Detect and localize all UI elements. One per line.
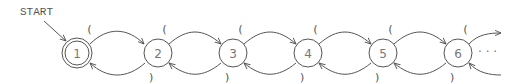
start-arrow [44,21,66,41]
state-1-label: 1 [73,47,81,61]
state-5-label: 5 [379,47,387,61]
edge-1-2 [90,31,144,44]
edge-5-4 [319,63,371,74]
edge-6-5 [394,63,446,74]
edge-2-3 [169,32,221,44]
label-4-5: ( [312,23,319,36]
edge-5-6 [394,32,446,44]
label-6-next: ( [462,23,469,36]
label-1-2: ( [86,23,93,36]
backward-labels: ) ) ) ) ) [148,71,456,84]
edge-next-6 [469,63,501,75]
forward-labels: ( ( ( ( ( ( [86,23,469,36]
edge-4-3 [244,63,296,74]
continuation-ellipsis: · · · [478,45,497,59]
label-3-4: ( [237,23,244,36]
state-1: 1 [62,38,92,68]
state-4: 4 [294,39,322,67]
edge-3-4 [244,32,296,44]
state-6: 6 [444,39,472,67]
label-2-3: ( [161,23,168,36]
edge-6-next [469,33,501,44]
state-5: 5 [369,39,397,67]
state-6-label: 6 [454,47,462,61]
start-label: START [20,6,53,18]
edge-2-1 [90,63,145,75]
state-diagram: START ( ( ( ( ( ( ) ) ) ) ) 1 [0,0,518,84]
label-2-1: ) [148,71,155,84]
state-2-label: 2 [154,47,162,61]
diagram-canvas: START ( ( ( ( ( ( ) ) ) ) ) 1 [0,0,518,84]
state-3: 3 [219,39,247,67]
state-2: 2 [144,39,172,67]
label-6-5: ) [449,71,456,84]
label-5-4: ) [374,71,381,84]
label-5-6: ( [387,23,394,36]
state-4-label: 4 [304,47,312,61]
label-4-3: ) [299,71,306,84]
state-3-label: 3 [229,47,237,61]
edge-3-2 [169,63,221,74]
label-3-2: ) [224,71,231,84]
edge-4-5 [319,32,371,44]
